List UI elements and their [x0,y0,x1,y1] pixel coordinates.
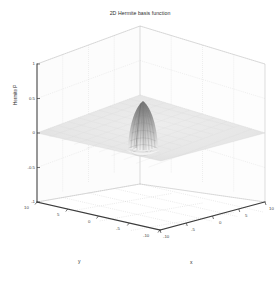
x-tick-label-2: 0 [219,220,221,225]
y-axis-label: y [78,258,81,264]
y-tick-label-1: 5 [57,212,59,217]
x-tick-label-3: 5 [245,213,247,218]
surface-plot-svg [0,0,280,285]
x-tick-label-4: 10 [269,206,274,211]
z-tick-label-2: 0 [24,130,35,135]
z-tick-label-1: 0.5 [22,96,35,101]
figure-canvas: 2D Hermite basis function [0,0,280,285]
x-axis-label: x [190,259,193,265]
y-tick-label-0: 10 [24,205,29,210]
z-axis-label: Hermite P [13,85,18,105]
z-tick-label-4: -1 [22,199,35,204]
x-tick-label-0: -10 [163,234,169,239]
y-tick-label-3: -5 [116,226,120,231]
y-tick-label-2: 0 [88,219,90,224]
z-tick-label-0: 1 [24,61,35,66]
z-tick-label-3: -0.5 [20,165,35,170]
x-tick-label-1: -5 [191,227,195,232]
y-tick-label-4: -10 [143,233,149,238]
